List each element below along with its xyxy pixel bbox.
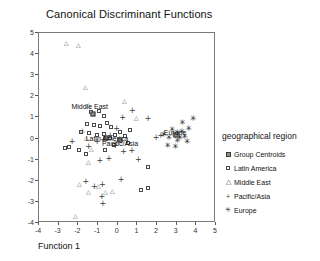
y-tick — [35, 32, 38, 33]
legend-label: Group Centroids — [234, 151, 285, 158]
y-tick-label: 3 — [20, 71, 34, 78]
plot-frame: +++++++++++++++++++++++✳✳✳✳✳✳✳✳✳✳✳✳✳✳✳Mi… — [38, 32, 215, 222]
x-tick-label: -1 — [90, 227, 104, 234]
data-point: + — [99, 181, 106, 189]
x-tick-label: 5 — [208, 227, 222, 234]
y-tick — [35, 201, 38, 202]
point-annotation: Europe — [164, 128, 187, 135]
y-tick-label: 5 — [20, 29, 34, 36]
x-tick — [156, 222, 157, 225]
y-tick-label: -2 — [20, 176, 34, 183]
data-point — [146, 165, 150, 169]
data-point — [92, 123, 96, 127]
data-point — [122, 102, 128, 107]
data-point: + — [119, 114, 126, 122]
data-point: + — [120, 148, 127, 156]
data-point: + — [129, 107, 136, 115]
legend-item[interactable]: Group Centroids — [222, 147, 318, 161]
x-tick — [176, 222, 177, 225]
data-point — [84, 152, 88, 156]
legend-item[interactable]: △Middle East — [222, 175, 318, 189]
data-point: + — [69, 138, 76, 146]
legend: geographical region Group CentroidsLatin… — [222, 131, 318, 217]
x-tick-label: 3 — [169, 227, 183, 234]
data-point: + — [97, 157, 104, 165]
data-point — [64, 44, 70, 49]
legend-label: Middle East — [234, 179, 271, 186]
x-tick-label: 4 — [188, 227, 202, 234]
data-point — [63, 146, 67, 150]
legend-marker-icon: ✳ — [222, 206, 234, 214]
data-point — [109, 125, 113, 129]
data-point — [77, 148, 81, 152]
legend-label: Latin America — [234, 165, 276, 172]
y-tick — [35, 180, 38, 181]
chart-root: Canonical Discriminant Functions +++++++… — [0, 0, 320, 261]
y-tick — [35, 116, 38, 117]
x-axis-label: Function 1 — [38, 241, 148, 251]
legend-item[interactable]: ✳Europe — [222, 203, 318, 217]
y-tick-label: 2 — [20, 92, 34, 99]
x-axis: -4-3-2-1012345 — [38, 222, 215, 236]
data-point — [98, 124, 102, 128]
y-tick-label: 0 — [20, 134, 34, 141]
y-tick-label: -4 — [20, 219, 34, 226]
data-point: ✳ — [174, 137, 181, 145]
x-tick — [136, 222, 137, 225]
legend-title: geographical region — [222, 131, 318, 141]
legend-marker-icon: + — [222, 193, 234, 200]
x-tick-label: 0 — [110, 227, 124, 234]
y-tick-label: 4 — [20, 50, 34, 57]
y-tick-label: 1 — [20, 113, 34, 120]
y-tick-label: -3 — [20, 197, 34, 204]
x-tick-label: -2 — [70, 227, 84, 234]
x-tick — [215, 222, 216, 225]
data-point — [85, 122, 89, 126]
data-point — [83, 88, 89, 93]
data-point: + — [135, 156, 142, 164]
y-axis: -4-3-2-1012345 — [20, 32, 38, 222]
data-point — [102, 114, 106, 118]
page-title: Canonical Discriminant Functions — [46, 8, 226, 20]
x-tick-label: 2 — [149, 227, 163, 234]
data-point — [86, 194, 92, 199]
y-tick — [35, 74, 38, 75]
data-point: + — [113, 125, 120, 133]
x-tick — [38, 222, 39, 225]
data-point: + — [85, 143, 92, 151]
data-point — [103, 148, 107, 152]
data-point: ✳ — [184, 138, 191, 146]
data-point — [97, 109, 101, 113]
data-point — [86, 164, 92, 169]
data-point: + — [105, 155, 112, 163]
data-point — [110, 193, 116, 198]
data-point — [128, 128, 132, 132]
legend-marker-icon — [222, 152, 234, 157]
data-point: + — [145, 115, 152, 123]
legend-label: Pacific/Asia — [234, 193, 270, 200]
legend-marker-icon: △ — [222, 178, 234, 186]
x-tick — [117, 222, 118, 225]
legend-item[interactable]: +Pacific/Asia — [222, 189, 318, 203]
legend-item[interactable]: Latin America — [222, 161, 318, 175]
data-point: ✳ — [164, 142, 171, 150]
x-tick — [77, 222, 78, 225]
data-point — [146, 186, 150, 190]
data-point: + — [100, 200, 107, 208]
x-tick — [58, 222, 59, 225]
data-point: + — [82, 178, 89, 186]
x-tick-label: 1 — [129, 227, 143, 234]
data-point: + — [91, 183, 98, 191]
legend-items: Group CentroidsLatin America△Middle East… — [222, 147, 318, 217]
x-tick — [97, 222, 98, 225]
data-point — [134, 120, 140, 125]
y-tick-label: -1 — [20, 155, 34, 162]
x-tick-label: -4 — [31, 227, 45, 234]
data-point: ✳ — [190, 115, 197, 123]
y-tick — [35, 95, 38, 96]
data-point — [76, 46, 82, 51]
data-point — [91, 111, 96, 116]
x-tick-label: -3 — [51, 227, 65, 234]
plot-area: +++++++++++++++++++++++✳✳✳✳✳✳✳✳✳✳✳✳✳✳✳Mi… — [39, 33, 214, 221]
data-point: + — [118, 176, 125, 184]
